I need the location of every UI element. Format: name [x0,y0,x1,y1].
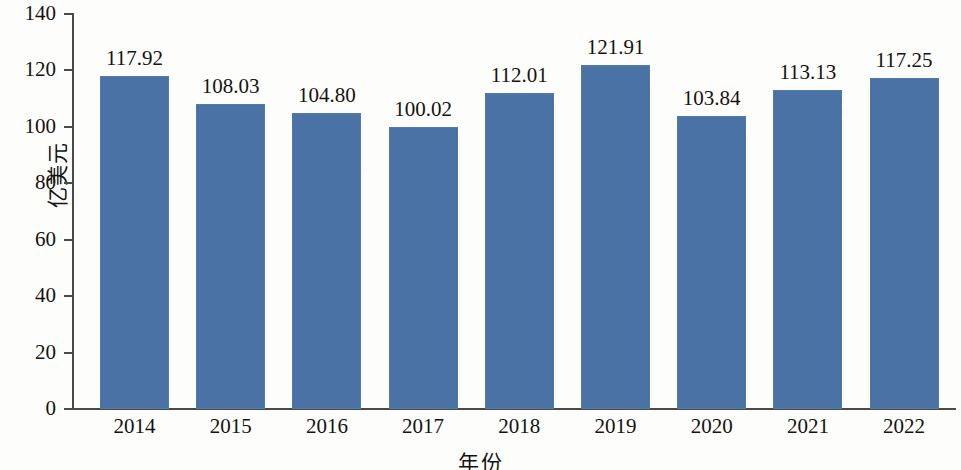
y-tick-label: 120 [0,59,56,80]
bar-value-label: 117.92 [78,48,191,69]
y-tick-label: 20 [0,342,56,363]
bar-value-label: 112.01 [463,65,576,86]
bar-value-label: 121.91 [559,37,672,58]
x-tick-label: 2017 [373,416,473,437]
x-tick-label: 2014 [85,416,185,437]
y-tick-label: 80 [0,172,56,193]
y-tick-mark [64,408,72,410]
x-tick-label: 2018 [469,416,569,437]
x-axis-title: 年份 [0,446,961,470]
bar-chart: 亿美元 020406080100120140 117.92108.03104.8… [0,0,961,470]
y-tick-label: 60 [0,229,56,250]
y-tick-mark [64,13,72,15]
y-tick-label: 100 [0,116,56,137]
bar [196,104,265,409]
bar-value-label: 100.02 [367,99,480,120]
y-tick-mark [64,182,72,184]
y-tick-mark [64,239,72,241]
bar [870,78,939,409]
bar [485,93,554,409]
bar [100,76,169,409]
y-tick-mark [64,126,72,128]
y-tick-mark [64,69,72,71]
x-tick-label: 2020 [662,416,762,437]
y-tick-mark [64,295,72,297]
bar [677,116,746,409]
y-tick-label: 140 [0,3,56,24]
y-tick-mark [64,352,72,354]
bar [581,65,650,409]
x-tick-label: 2019 [566,416,666,437]
x-tick-label: 2015 [181,416,281,437]
bar [292,113,361,409]
plot-area: 117.92108.03104.80100.02112.01121.91103.… [72,14,955,409]
x-tick-label: 2016 [277,416,377,437]
x-tick-label: 2021 [758,416,858,437]
bar [773,90,842,409]
y-tick-label: 40 [0,285,56,306]
x-tick-label: 2022 [854,416,954,437]
bar-value-label: 117.25 [848,50,961,71]
y-tick-label: 0 [0,398,56,419]
bar [389,127,458,409]
bar-value-label: 103.84 [655,88,768,109]
